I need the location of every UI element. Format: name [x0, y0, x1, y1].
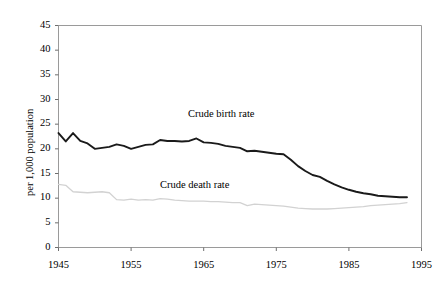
- chart-container: per 1,000 population 051015202530354045 …: [0, 0, 447, 286]
- series-label-crude-death-rate: Crude death rate: [160, 179, 229, 190]
- series-line-crude-death-rate: [59, 184, 407, 209]
- plot-frame: [59, 26, 422, 248]
- plot-area: [0, 0, 447, 286]
- series-line-crude-birth-rate: [59, 133, 407, 197]
- series-label-crude-birth-rate: Crude birth rate: [188, 108, 254, 119]
